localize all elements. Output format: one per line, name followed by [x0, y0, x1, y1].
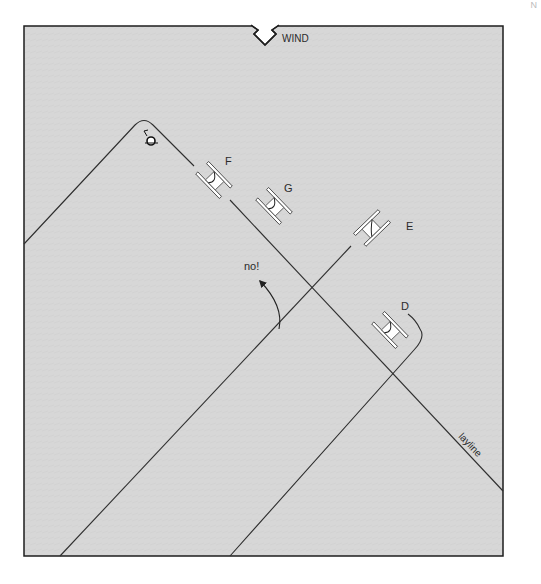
boat-e-label: E — [406, 220, 413, 232]
wind-label: WIND — [282, 33, 309, 44]
no-annotation: no! — [244, 260, 259, 272]
racing-diagram: WIND layline no! F G E — [0, 0, 541, 584]
water-area — [24, 26, 503, 556]
boat-f-label: F — [225, 155, 232, 167]
boat-g-label: G — [284, 182, 293, 194]
boat-d-label: D — [401, 300, 409, 312]
